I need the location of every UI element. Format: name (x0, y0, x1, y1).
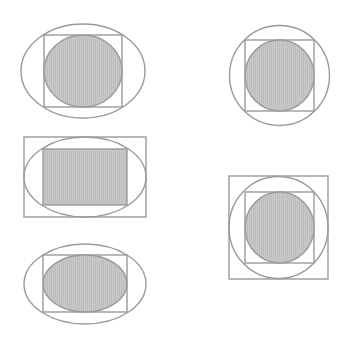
figure-5 (24, 244, 146, 324)
figure-2 (230, 26, 330, 126)
nested-shapes-diagram (0, 0, 351, 343)
figures-layer (21, 24, 330, 324)
figure-1-inner-ellipse (44, 35, 122, 107)
figure-3-inner-rect (43, 149, 127, 205)
figure-4 (229, 176, 328, 279)
figure-3 (24, 137, 146, 217)
figure-2-inner-ellipse (245, 40, 314, 111)
figure-4-inner-ellipse (245, 192, 314, 263)
figure-5-inner-ellipse (43, 255, 127, 312)
figure-1 (21, 24, 145, 118)
